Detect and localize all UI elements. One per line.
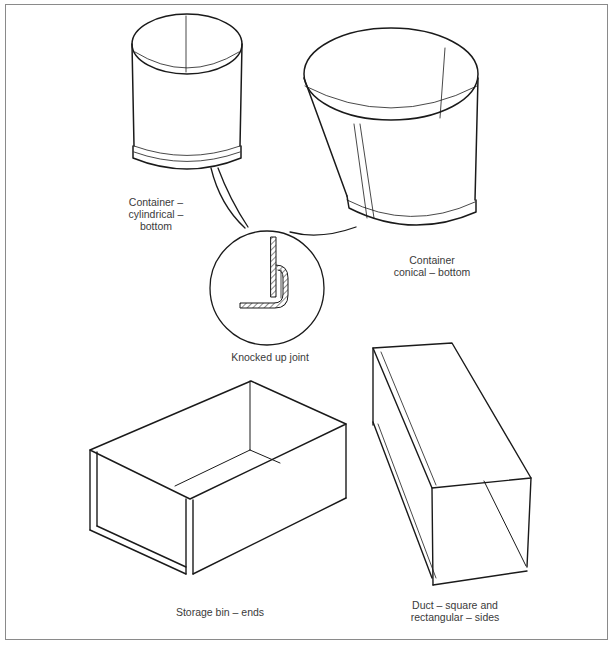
label-storage-bin: Storage bin – ends — [160, 606, 280, 618]
label-line: conical – bottom — [382, 266, 482, 278]
label-line: bottom — [120, 220, 192, 232]
label-conical-container: Container conical – bottom — [382, 254, 482, 278]
label-line: Container – — [120, 196, 192, 208]
cylindrical-container-drawing — [132, 14, 242, 169]
label-line: rectangular – sides — [400, 611, 510, 623]
label-line: Container — [382, 254, 482, 266]
joint-callout-drawing — [210, 168, 356, 345]
label-duct: Duct – square and rectangular – sides — [400, 599, 510, 623]
label-line: Duct – square and — [400, 599, 510, 611]
storage-bin-drawing — [90, 381, 346, 574]
label-cylindrical-container: Container – cylindrical – bottom — [120, 196, 192, 232]
duct-drawing — [373, 343, 531, 585]
figure-drawings — [0, 0, 614, 649]
label-line: cylindrical – — [120, 208, 192, 220]
conical-container-drawing — [304, 28, 478, 225]
label-knocked-up-joint: Knocked up joint — [220, 351, 320, 363]
